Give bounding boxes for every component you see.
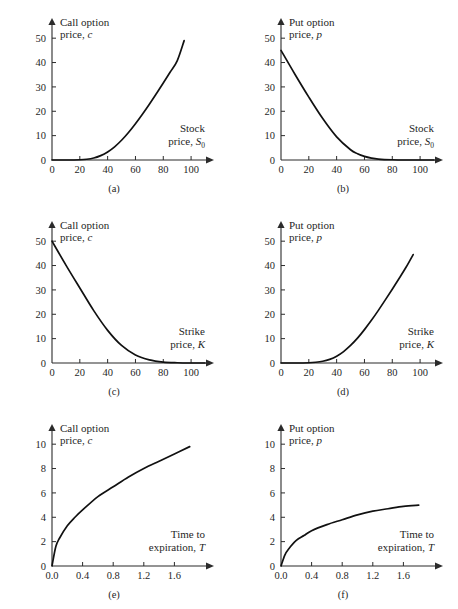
svg-text:20: 20	[36, 309, 47, 320]
svg-text:4: 4	[41, 512, 47, 523]
chart-panel-e: 0.00.40.81.21.60246810Call optionprice, …	[0, 406, 229, 606]
svg-text:60: 60	[130, 164, 141, 175]
svg-text:2: 2	[270, 536, 275, 547]
x-axis-title-b: Stockprice, S0	[397, 122, 434, 150]
svg-text:10: 10	[265, 439, 276, 450]
y-axis-title-b: Put optionprice, p	[289, 16, 335, 40]
svg-text:1.2: 1.2	[366, 570, 379, 581]
svg-text:0: 0	[270, 155, 275, 166]
x-tick-labels-f: 0.00.40.81.21.6	[274, 562, 410, 581]
x-axis-f	[281, 562, 443, 569]
svg-text:50: 50	[265, 33, 276, 44]
svg-text:Call option: Call option	[60, 422, 110, 434]
y-tick-labels-a: 01020304050	[36, 33, 57, 166]
panel-caption-a: (a)	[108, 183, 120, 195]
svg-text:price, K: price, K	[399, 338, 434, 350]
y-axis-e	[48, 424, 55, 566]
svg-text:30: 30	[36, 82, 47, 93]
svg-text:60: 60	[359, 367, 370, 378]
svg-text:20: 20	[304, 367, 315, 378]
svg-text:1.2: 1.2	[137, 570, 150, 581]
svg-text:20: 20	[36, 106, 47, 117]
svg-text:20: 20	[265, 309, 276, 320]
svg-text:0: 0	[49, 164, 54, 175]
svg-text:60: 60	[359, 164, 370, 175]
svg-text:30: 30	[265, 82, 276, 93]
svg-text:Call option: Call option	[60, 219, 110, 231]
svg-text:Strike: Strike	[408, 325, 434, 337]
svg-text:price, S0: price, S0	[397, 135, 434, 150]
data-curve-f	[281, 505, 419, 566]
svg-text:expiration, T: expiration, T	[149, 541, 206, 553]
svg-text:0.0: 0.0	[274, 570, 287, 581]
svg-text:expiration, T: expiration, T	[378, 541, 435, 553]
svg-text:6: 6	[270, 488, 275, 499]
chart-panel-b: 02040608010001020304050Put optionprice, …	[229, 0, 458, 200]
svg-text:0: 0	[278, 164, 283, 175]
panel-caption-c: (c)	[108, 386, 120, 398]
svg-text:2: 2	[41, 536, 46, 547]
chart-panel-a: 02040608010001020304050Call optionprice,…	[0, 0, 229, 200]
svg-text:0: 0	[41, 358, 46, 369]
svg-text:80: 80	[387, 164, 398, 175]
y-tick-labels-c: 01020304050	[36, 236, 57, 369]
svg-text:1.6: 1.6	[168, 570, 181, 581]
y-axis-a	[48, 18, 55, 160]
svg-text:Put option: Put option	[289, 219, 335, 231]
svg-text:0: 0	[41, 561, 46, 572]
svg-text:price, p: price, p	[289, 231, 322, 243]
svg-text:40: 40	[36, 260, 47, 271]
y-axis-title-e: Call optionprice, c	[60, 422, 110, 446]
x-tick-labels-e: 0.00.40.81.21.6	[45, 562, 181, 581]
svg-text:1.6: 1.6	[397, 570, 410, 581]
y-axis-f	[277, 424, 284, 566]
svg-text:10: 10	[265, 130, 276, 141]
svg-text:Put option: Put option	[289, 422, 335, 434]
svg-text:0: 0	[270, 358, 275, 369]
svg-text:price, p: price, p	[289, 434, 322, 446]
svg-text:20: 20	[265, 106, 276, 117]
x-axis-e	[52, 562, 214, 569]
svg-text:0.4: 0.4	[76, 570, 90, 581]
svg-text:100: 100	[183, 164, 199, 175]
options-sensitivity-figure: 02040608010001020304050Call optionprice,…	[0, 0, 458, 609]
x-tick-labels-c: 020406080100	[49, 359, 199, 378]
svg-text:price, p: price, p	[289, 28, 322, 40]
svg-text:40: 40	[331, 367, 342, 378]
svg-text:80: 80	[158, 164, 169, 175]
svg-text:price, c: price, c	[60, 28, 92, 40]
svg-text:0.8: 0.8	[336, 570, 349, 581]
svg-text:40: 40	[331, 164, 342, 175]
x-axis-title-f: Time toexpiration, T	[378, 528, 435, 553]
panel-caption-b: (b)	[337, 183, 350, 195]
y-tick-labels-e: 0246810	[36, 439, 57, 572]
y-axis-title-d: Put optionprice, p	[289, 219, 335, 243]
svg-text:price, K: price, K	[170, 338, 205, 350]
svg-text:price, c: price, c	[60, 434, 92, 446]
svg-text:0: 0	[278, 367, 283, 378]
svg-text:20: 20	[304, 164, 315, 175]
x-tick-labels-d: 020406080100	[278, 359, 428, 378]
svg-text:10: 10	[36, 333, 47, 344]
svg-text:0: 0	[49, 367, 54, 378]
svg-text:50: 50	[36, 33, 47, 44]
data-curve-a	[52, 41, 184, 160]
x-axis-title-a: Stockprice, S0	[168, 122, 205, 150]
svg-text:60: 60	[130, 367, 141, 378]
x-tick-labels-b: 020406080100	[278, 156, 428, 175]
panel-caption-e: (e)	[108, 589, 120, 601]
svg-text:Call option: Call option	[60, 16, 110, 28]
svg-text:0: 0	[270, 561, 275, 572]
x-tick-labels-a: 020406080100	[49, 156, 199, 175]
y-axis-d	[277, 221, 284, 363]
svg-text:Time to: Time to	[171, 528, 206, 540]
chart-panel-c: 02040608010001020304050Call optionprice,…	[0, 203, 229, 403]
svg-text:20: 20	[75, 367, 86, 378]
svg-text:50: 50	[265, 236, 276, 247]
svg-text:Stock: Stock	[409, 122, 435, 134]
svg-text:20: 20	[75, 164, 86, 175]
svg-text:40: 40	[265, 260, 276, 271]
svg-text:40: 40	[265, 57, 276, 68]
svg-text:10: 10	[265, 333, 276, 344]
svg-text:10: 10	[36, 439, 47, 450]
